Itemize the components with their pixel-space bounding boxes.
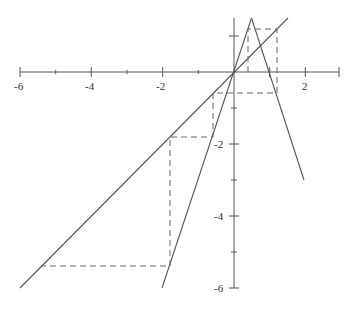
tent-right-leg [252, 18, 305, 180]
x-tick-label: -6 [14, 80, 24, 92]
cobweb-diagram: -6 -4 -2 2 -2 -4 -6 [0, 0, 358, 309]
x-tick-label: -2 [156, 80, 165, 92]
tent-left-leg [162, 18, 252, 288]
y-tick-label: -4 [214, 210, 224, 222]
y-tick-label: -2 [214, 138, 223, 150]
x-tick-label: 2 [302, 80, 308, 92]
x-tick-label: -4 [85, 80, 95, 92]
y-tick-label: -6 [214, 282, 224, 294]
